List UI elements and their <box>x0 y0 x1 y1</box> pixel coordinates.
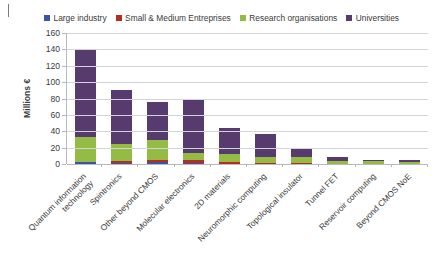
gridline <box>67 33 428 34</box>
x-axis-label-line: Quantum information <box>26 172 88 234</box>
legend-swatch-icon <box>346 15 352 21</box>
y-axis-tick-label: 20 <box>50 143 60 152</box>
y-axis-tick <box>62 115 66 116</box>
y-axis-tick <box>62 33 66 34</box>
x-axis-label: Quantum informationtechnology <box>26 172 94 240</box>
legend-item-label: Research organisations <box>249 14 337 22</box>
bar-segment[interactable] <box>147 140 168 159</box>
legend-item[interactable]: Research organisations <box>240 14 338 22</box>
gridline <box>67 99 428 100</box>
x-axis-label-cell: Beyond CMOS NoE <box>392 167 428 263</box>
legend-item[interactable]: Large industry <box>44 14 107 22</box>
y-axis-tick <box>62 131 66 132</box>
y-axis-tick <box>62 99 66 100</box>
gridline <box>67 66 428 67</box>
bar-segment[interactable] <box>75 137 96 162</box>
y-axis-title-label: Millions € <box>24 79 33 118</box>
gridline <box>67 49 428 50</box>
y-axis-title: Millions € <box>22 33 34 164</box>
chart-plot-area: 160140120100806040200 <box>66 33 428 164</box>
bar-segment[interactable] <box>75 49 96 137</box>
bar-segment[interactable] <box>183 99 204 153</box>
legend-swatch-icon <box>116 15 122 21</box>
stacked-bar[interactable] <box>291 148 312 164</box>
legend-item-label: Small & Medium Entreprises <box>125 14 231 22</box>
y-axis-tick <box>62 82 66 83</box>
legend-swatch-icon <box>240 15 246 21</box>
x-axis-labels: Quantum informationtechnologySpintronics… <box>66 167 428 263</box>
y-axis-tick-label: 60 <box>50 111 60 120</box>
y-axis-tick <box>62 148 66 149</box>
y-axis-tick-label: 120 <box>46 61 60 70</box>
gridline <box>67 148 428 149</box>
bar-segment[interactable] <box>291 148 312 156</box>
legend-item[interactable]: Small & Medium Entreprises <box>116 14 231 22</box>
y-axis-tick-label: 80 <box>50 94 60 103</box>
gridline <box>67 131 428 132</box>
stacked-bar[interactable] <box>255 134 276 164</box>
y-axis-tick-label: 140 <box>46 45 60 54</box>
page-gutter-mark <box>8 4 9 17</box>
legend-item[interactable]: Universities <box>346 14 399 22</box>
y-axis-tick-label: 40 <box>50 127 60 136</box>
bar-segment[interactable] <box>147 102 168 140</box>
legend-item-label: Large industry <box>54 14 107 22</box>
plot-frame: 160140120100806040200 <box>66 33 428 164</box>
gridline <box>67 115 428 116</box>
y-axis-tick <box>62 66 66 67</box>
x-axis-label-cell: Topological insulator <box>283 167 319 263</box>
stacked-bar[interactable] <box>111 90 132 164</box>
chart-legend: Large industrySmall & Medium Entreprises… <box>44 11 432 25</box>
stacked-bar[interactable] <box>147 102 168 164</box>
legend-item-label: Universities <box>356 14 399 22</box>
stacked-bar[interactable] <box>219 128 240 164</box>
y-axis-tick <box>62 49 66 50</box>
bar-segment[interactable] <box>219 154 240 162</box>
x-axis-label-cell: Quantum informationtechnology <box>66 167 102 263</box>
y-axis-tick-label: 0 <box>55 160 60 169</box>
y-axis-tick-label: 100 <box>46 78 60 87</box>
legend-swatch-icon <box>44 15 50 21</box>
gridline <box>67 82 428 83</box>
x-axis-label-cell: Molecular electronics <box>175 167 211 263</box>
y-axis-tick-label: 160 <box>46 29 60 38</box>
bar-segment[interactable] <box>183 153 204 160</box>
bar-segment[interactable] <box>255 134 276 158</box>
